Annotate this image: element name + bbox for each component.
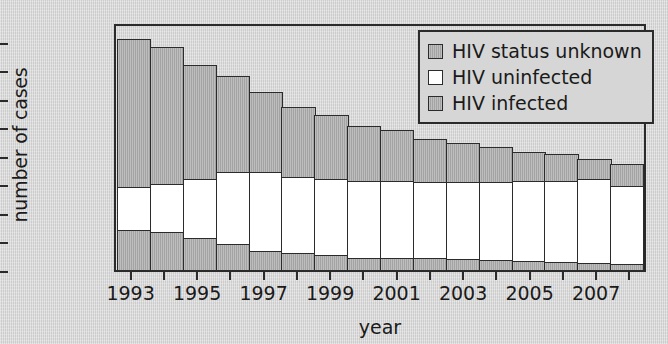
- bar-segment-unknown: [512, 152, 546, 183]
- bar-segment-infected: [281, 253, 315, 272]
- bar-segment-uninfected: [577, 179, 611, 264]
- bar-segment-unknown: [577, 159, 611, 181]
- bar-segment-infected: [413, 258, 447, 272]
- x-tick-label: 1999: [306, 282, 354, 304]
- bar-segment-infected: [577, 263, 611, 272]
- legend-swatch-uninfected: [428, 70, 443, 85]
- bar-2004: [479, 147, 512, 270]
- bar-segment-uninfected: [544, 181, 578, 264]
- bar-segment-unknown: [249, 92, 283, 174]
- bar-2006: [544, 154, 577, 270]
- bar-segment-uninfected: [314, 179, 348, 257]
- x-tick-mark: [562, 272, 564, 280]
- bar-segment-uninfected: [216, 172, 250, 245]
- bar-1994: [150, 47, 183, 270]
- bar-segment-uninfected: [380, 181, 414, 259]
- bar-1996: [216, 76, 249, 270]
- x-tick-mark: [628, 272, 630, 280]
- bar-segment-uninfected: [479, 182, 513, 262]
- x-tick-mark: [163, 272, 165, 280]
- bar-2005: [512, 152, 545, 270]
- x-tick-mark: [196, 272, 198, 280]
- x-tick-mark: [229, 272, 231, 280]
- chart-legend: HIV status unknownHIV uninfectedHIV infe…: [418, 30, 654, 124]
- x-tick-mark: [296, 272, 298, 280]
- legend-label: HIV infected: [452, 92, 568, 114]
- x-tick-mark: [263, 272, 265, 280]
- bar-segment-infected: [380, 258, 414, 272]
- x-tick-mark: [462, 272, 464, 280]
- bar-segment-unknown: [117, 39, 151, 189]
- x-tick-label: 1995: [173, 282, 221, 304]
- bar-1995: [183, 65, 216, 270]
- x-tick-label: 2003: [439, 282, 487, 304]
- bar-1999: [314, 115, 347, 270]
- legend-swatch-infected: [428, 96, 443, 111]
- x-axis-title: year: [114, 316, 646, 338]
- legend-label: HIV uninfected: [452, 66, 592, 88]
- bar-2007: [577, 159, 610, 270]
- bar-segment-infected: [610, 264, 644, 271]
- bar-2000: [347, 126, 380, 270]
- bar-segment-uninfected: [150, 184, 184, 234]
- bar-2003: [446, 143, 479, 270]
- x-tick-mark: [429, 272, 431, 280]
- bar-segment-uninfected: [512, 181, 546, 263]
- bar-segment-uninfected: [117, 187, 151, 231]
- bar-2002: [413, 139, 446, 270]
- bar-segment-infected: [249, 251, 283, 271]
- legend-item-infected: HIV infected: [428, 90, 642, 116]
- bar-segment-infected: [150, 232, 184, 271]
- legend-item-uninfected: HIV uninfected: [428, 64, 642, 90]
- bar-segment-unknown: [544, 154, 578, 182]
- x-tick-label: 2007: [572, 282, 620, 304]
- chart-page: number of cases 020004000600080001000012…: [0, 0, 668, 344]
- x-tick-mark: [495, 272, 497, 280]
- bar-segment-unknown: [183, 65, 217, 180]
- x-tick-label: 1997: [239, 282, 287, 304]
- bar-segment-uninfected: [347, 181, 381, 259]
- bar-segment-infected: [117, 230, 151, 271]
- bar-segment-infected: [216, 244, 250, 272]
- bar-1998: [281, 107, 314, 270]
- y-axis-title-text: number of cases: [9, 67, 31, 222]
- bar-segment-infected: [512, 261, 546, 271]
- bar-segment-unknown: [610, 164, 644, 187]
- bar-segment-uninfected: [249, 172, 283, 253]
- bar-segment-infected: [544, 262, 578, 271]
- bar-segment-uninfected: [281, 177, 315, 254]
- bar-segment-unknown: [150, 47, 184, 185]
- bar-segment-infected: [183, 238, 217, 271]
- bar-segment-infected: [347, 258, 381, 272]
- x-tick-label: 2005: [505, 282, 553, 304]
- bar-segment-infected: [314, 255, 348, 271]
- x-tick-mark: [329, 272, 331, 280]
- x-tick-label: 2001: [372, 282, 420, 304]
- legend-swatch-unknown: [428, 44, 443, 59]
- bar-2008: [610, 164, 643, 270]
- bar-segment-unknown: [413, 139, 447, 183]
- bar-1993: [117, 39, 150, 270]
- bar-segment-unknown: [216, 76, 250, 174]
- bar-segment-uninfected: [610, 186, 644, 266]
- x-tick-label: 1993: [106, 282, 154, 304]
- bar-segment-uninfected: [413, 182, 447, 260]
- bar-segment-unknown: [314, 115, 348, 181]
- x-tick-mark: [362, 272, 364, 280]
- legend-label: HIV status unknown: [452, 40, 642, 62]
- bar-segment-unknown: [347, 126, 381, 182]
- bar-segment-unknown: [446, 143, 480, 183]
- x-tick-mark: [529, 272, 531, 280]
- bar-segment-infected: [446, 259, 480, 271]
- x-axis-title-text: year: [359, 316, 401, 338]
- bar-segment-unknown: [380, 130, 414, 182]
- bar-segment-uninfected: [446, 182, 480, 261]
- bar-segment-unknown: [479, 147, 513, 183]
- bar-1997: [249, 92, 282, 270]
- bar-segment-unknown: [281, 107, 315, 178]
- bar-segment-infected: [479, 260, 513, 271]
- x-tick-mark: [130, 272, 132, 280]
- bar-2001: [380, 130, 413, 270]
- x-tick-mark: [595, 272, 597, 280]
- legend-item-unknown: HIV status unknown: [428, 38, 642, 64]
